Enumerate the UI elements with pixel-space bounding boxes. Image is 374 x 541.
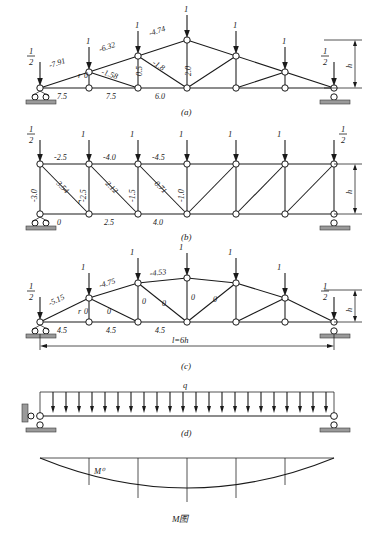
member-label-a-2: -4.74 bbox=[148, 24, 167, 38]
member-label-b-11: 0 bbox=[57, 218, 61, 227]
load-label-a-5: 1 bbox=[282, 36, 286, 46]
member-label-c-4: 0 bbox=[142, 297, 146, 306]
moment-ordinates bbox=[40, 458, 285, 502]
load-label-c-0-den: 2 bbox=[29, 292, 34, 302]
load-arrows-b bbox=[37, 140, 337, 162]
panel-a: 1 2 1 1 1 1 1 1 2 -7.91 -6.32 -4.74 -1.5… bbox=[0, 0, 374, 120]
member-label-a-10: 7.5 bbox=[106, 92, 116, 101]
height-dimension-c: h bbox=[324, 290, 362, 322]
load-label-b-0-den: 2 bbox=[29, 135, 34, 145]
load-label-b-5: 1 bbox=[277, 129, 281, 139]
member-label-a-7: r bbox=[78, 71, 82, 80]
member-label-c-2: -4.53 bbox=[149, 267, 167, 278]
load-label-a-1: 1 bbox=[86, 36, 90, 46]
member-label-c-6: 0 bbox=[191, 293, 195, 302]
member-label-a-8: 0 bbox=[84, 71, 88, 80]
height-label-c: h bbox=[344, 308, 354, 312]
member-label-b-1: -4.0 bbox=[103, 153, 116, 162]
member-label-c-12: 4.5 bbox=[155, 326, 165, 335]
load-label-c-2: 1 bbox=[130, 247, 134, 257]
member-label-a-9: 7.5 bbox=[57, 92, 67, 101]
height-dimension-a: h bbox=[324, 40, 362, 88]
member-label-a-11: 6.0 bbox=[155, 92, 165, 101]
member-label-c-11: 4.5 bbox=[106, 326, 116, 335]
member-label-b-7: -1.5 bbox=[128, 189, 137, 202]
span-dimension-c: l=6h bbox=[40, 334, 334, 350]
member-label-a-4: -1.8 bbox=[151, 58, 167, 72]
member-label-c-7: 0 bbox=[213, 295, 217, 304]
truss-a-members bbox=[40, 40, 334, 88]
member-label-a-6: 2.0 bbox=[184, 66, 193, 76]
member-label-b-13: 4.0 bbox=[153, 218, 163, 227]
panel-c: 1 2 1 1 1 1 1 1 2 -5.15 -4.75 -4.53 0 0 … bbox=[0, 244, 374, 374]
load-label-a-6-den: 2 bbox=[323, 57, 328, 67]
load-label-c-3: 1 bbox=[179, 242, 183, 252]
load-labels-a: 1 2 1 1 1 1 1 1 2 bbox=[27, 4, 329, 67]
load-label-d: q bbox=[183, 380, 188, 390]
distributed-load-arrows-d bbox=[51, 392, 328, 413]
member-labels-a: -7.91 -6.32 -4.74 -1.58 -1.8 0.5 2.0 r 0… bbox=[48, 24, 193, 101]
load-label-c-0-num: 1 bbox=[29, 281, 33, 291]
load-label-a-0-den: 2 bbox=[29, 57, 34, 67]
support-pin-left-d bbox=[22, 404, 56, 432]
load-label-c-4: 1 bbox=[228, 247, 232, 257]
height-label-b: h bbox=[344, 190, 354, 194]
member-label-c-10: 4.5 bbox=[57, 326, 67, 335]
load-label-b-6-num: 1 bbox=[341, 124, 345, 134]
caption-c: (c) bbox=[181, 361, 191, 371]
support-pin-left-b bbox=[26, 217, 56, 230]
load-label-a-2: 1 bbox=[135, 20, 139, 30]
member-label-b-9: -1.0 bbox=[177, 189, 186, 202]
caption-d: (d) bbox=[181, 428, 192, 438]
load-label-a-3: 1 bbox=[184, 4, 188, 14]
member-label-c-3: 0 bbox=[107, 307, 111, 316]
caption-a: (a) bbox=[181, 107, 192, 117]
load-label-c-5: 1 bbox=[277, 262, 281, 272]
member-label-c-5: 0 bbox=[162, 299, 166, 308]
moment-diagram-caption: M图 bbox=[171, 514, 190, 524]
member-label-c-1: -4.75 bbox=[98, 276, 117, 289]
member-label-c-8: r bbox=[78, 307, 82, 316]
load-label-b-1: 1 bbox=[81, 129, 85, 139]
support-roller-right-b bbox=[320, 220, 350, 230]
support-pin-left-c bbox=[26, 325, 56, 338]
span-label-c: l=6h bbox=[172, 335, 189, 345]
member-label-b-3: -3.0 bbox=[30, 189, 39, 202]
load-label-a-0-num: 1 bbox=[29, 46, 33, 56]
member-labels-c: -5.15 -4.75 -4.53 0 0 0 0 0 r 0 4.5 4.5 … bbox=[47, 267, 217, 335]
member-label-b-0: -2.5 bbox=[54, 153, 67, 162]
height-label-a: h bbox=[344, 64, 354, 68]
height-dimension-b: h bbox=[334, 164, 362, 214]
moment-peak-label: M⁰ bbox=[93, 466, 106, 476]
load-label-b-2: 1 bbox=[130, 129, 134, 139]
member-label-a-5: 0.5 bbox=[135, 66, 144, 76]
load-label-c-6-num: 1 bbox=[323, 281, 327, 291]
load-label-b-6-den: 2 bbox=[341, 135, 346, 145]
member-label-c-9: 0 bbox=[84, 307, 88, 316]
load-label-a-4: 1 bbox=[233, 20, 237, 30]
caption-b: (b) bbox=[181, 232, 192, 242]
load-label-c-6-den: 2 bbox=[323, 292, 328, 302]
member-label-a-0: -7.91 bbox=[48, 56, 67, 70]
load-label-b-3: 1 bbox=[179, 129, 183, 139]
member-label-a-1: -6.32 bbox=[98, 40, 117, 54]
load-label-b-4: 1 bbox=[228, 129, 232, 139]
support-roller-right-c bbox=[320, 328, 350, 338]
load-label-b-0-num: 1 bbox=[29, 124, 33, 134]
load-label-c-1: 1 bbox=[81, 262, 85, 272]
support-roller-right-a bbox=[320, 94, 350, 104]
panel-moment-diagram: M⁰ M图 bbox=[0, 440, 374, 541]
load-label-a-6-num: 1 bbox=[323, 46, 327, 56]
panel-b: 1 2 1 1 1 1 1 1 2 -2.5 -4.0 -4.5 -3.0 3.… bbox=[0, 122, 374, 242]
load-labels-c: 1 2 1 1 1 1 1 1 2 bbox=[27, 242, 329, 302]
panel-d: q (d) bbox=[0, 376, 374, 438]
member-label-c-0: -5.15 bbox=[47, 292, 66, 307]
member-label-b-12: 2.5 bbox=[104, 218, 114, 227]
support-pin-left-a bbox=[26, 91, 56, 104]
truss-b-members bbox=[40, 164, 334, 214]
member-label-b-2: -4.5 bbox=[152, 153, 165, 162]
